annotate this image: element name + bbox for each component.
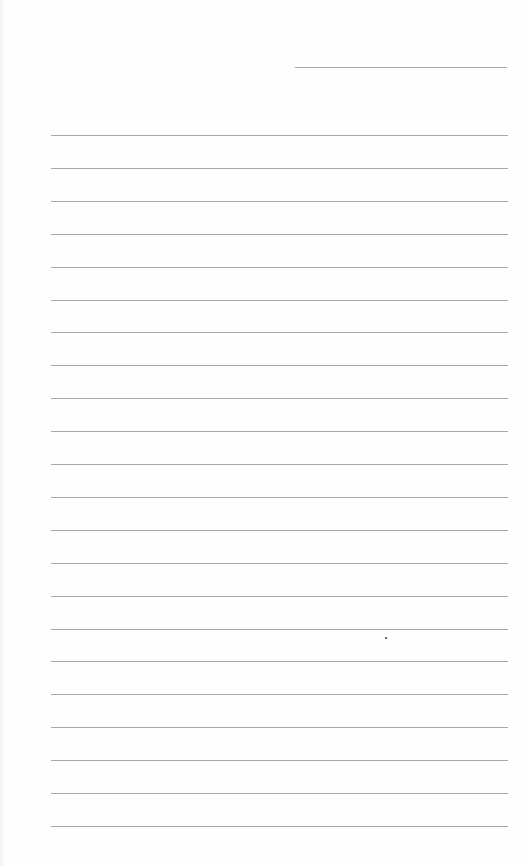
ruled-line [51, 793, 508, 794]
ruled-line [51, 234, 508, 235]
ruled-line [51, 398, 508, 399]
ruled-line [51, 760, 508, 761]
ruled-line [51, 464, 508, 465]
ruled-line [51, 661, 508, 662]
ruled-line [51, 563, 508, 564]
ruled-lines [0, 0, 523, 866]
ruled-line [51, 135, 508, 136]
ruled-line [51, 201, 508, 202]
ruled-line [51, 596, 508, 597]
ruled-line [51, 694, 508, 695]
ruled-line [51, 431, 508, 432]
ruled-line [51, 727, 508, 728]
lined-paper-page [0, 0, 523, 866]
ruled-line [51, 826, 508, 827]
ruled-line [51, 530, 508, 531]
ruled-line [51, 168, 508, 169]
ruled-line [51, 629, 508, 630]
ruled-line [51, 497, 508, 498]
ruled-line [51, 332, 508, 333]
ink-dot [385, 637, 387, 639]
ruled-line [51, 300, 508, 301]
ruled-line [51, 267, 508, 268]
ruled-line [51, 365, 508, 366]
